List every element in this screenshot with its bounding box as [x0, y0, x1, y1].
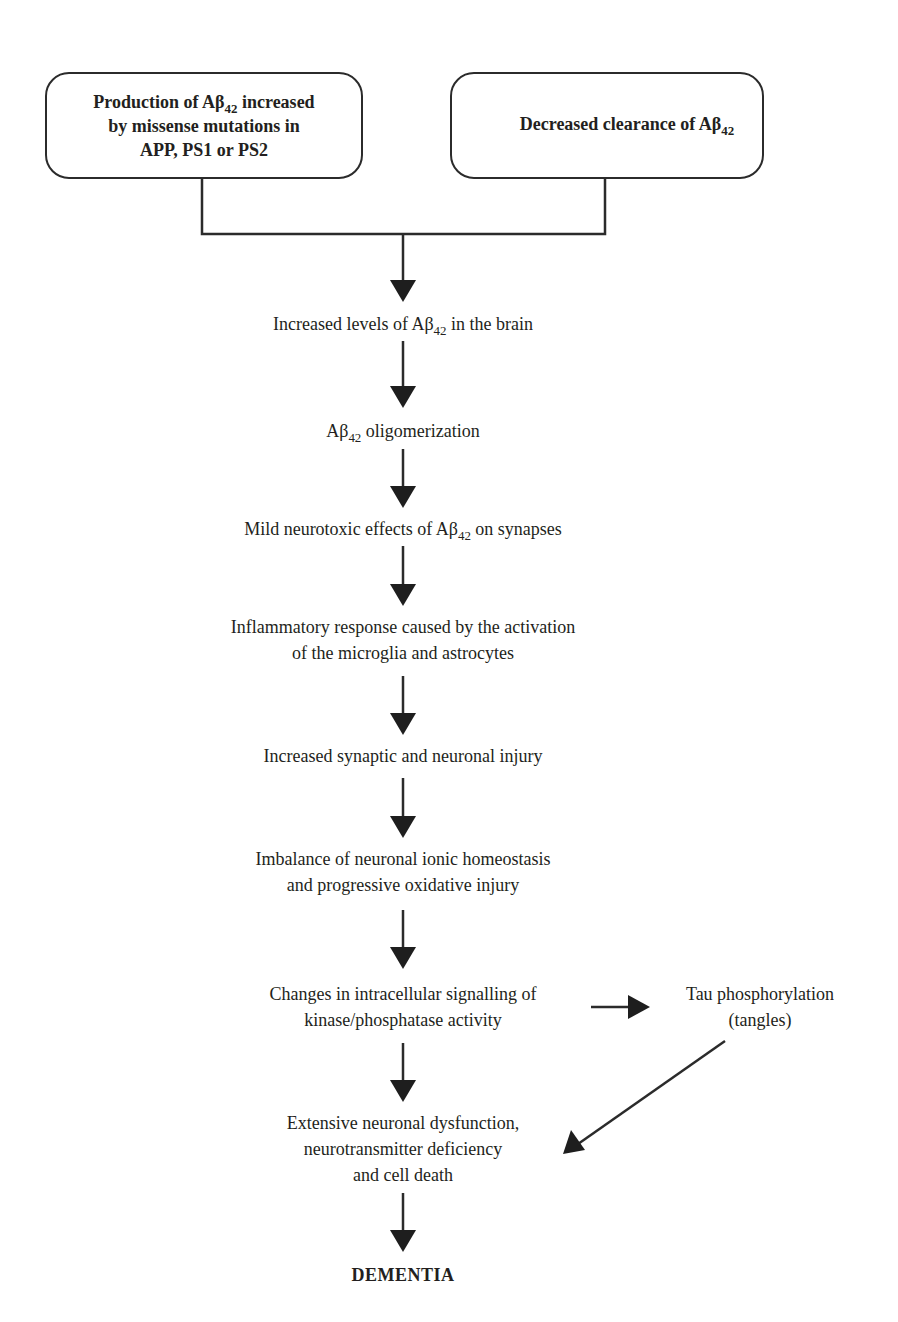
- arrowhead-down-9: [390, 1230, 416, 1252]
- arrowhead-right-tau: [628, 995, 650, 1019]
- merge-connector: [202, 178, 605, 234]
- arrowhead-down-4: [390, 584, 416, 606]
- text-line: kinase/phosphatase activity: [270, 1007, 537, 1033]
- text-line: Mild neurotoxic effects of Aβ42 on synap…: [244, 516, 562, 542]
- text-line: Increased levels of Aβ42 in the brain: [273, 311, 533, 337]
- arrowhead-down-6: [390, 816, 416, 838]
- text-line: Imbalance of neuronal ionic homeostasis: [256, 846, 551, 872]
- clearance-box: Decreased clearance of Aβ42: [450, 72, 764, 179]
- arrowhead-down-7: [390, 947, 416, 969]
- arrowhead-down-2: [390, 386, 416, 408]
- step-ionic-imbalance: Imbalance of neuronal ionic homeostasis …: [256, 846, 551, 898]
- text-line: Aβ42 oligomerization: [326, 418, 480, 444]
- outcome-label: DEMENTIA: [351, 1262, 454, 1288]
- arrowhead-down-8: [390, 1080, 416, 1102]
- text-line: Decreased clearance of Aβ42: [520, 112, 735, 136]
- text-line: by missense mutations in: [93, 114, 314, 138]
- text-line: Extensive neuronal dysfunction,: [287, 1110, 519, 1136]
- production-box: Production of Aβ42 increased by missense…: [45, 72, 363, 179]
- step-neuronal-dysfunction: Extensive neuronal dysfunction, neurotra…: [287, 1110, 519, 1188]
- text-line: Production of Aβ42 increased: [93, 90, 314, 114]
- text-line: and progressive oxidative injury: [256, 872, 551, 898]
- text-line: and cell death: [287, 1162, 519, 1188]
- text-line: APP, PS1 or PS2: [93, 138, 314, 162]
- arrow-shaft-from-tau: [578, 1041, 725, 1144]
- arrowhead-down-3: [390, 486, 416, 508]
- text-line: of the microglia and astrocytes: [231, 640, 575, 666]
- text-line: Inflammatory response caused by the acti…: [231, 614, 575, 640]
- step-synaptic-injury: Increased synaptic and neuronal injury: [264, 743, 543, 769]
- step-increased-levels: Increased levels of Aβ42 in the brain: [273, 311, 533, 337]
- dementia-outcome: DEMENTIA: [351, 1262, 454, 1288]
- text-line: (tangles): [686, 1007, 834, 1033]
- flowchart-canvas: Production of Aβ42 increased by missense…: [0, 0, 898, 1322]
- clearance-box-text: Decreased clearance of Aβ42: [480, 112, 735, 140]
- text-line: Increased synaptic and neuronal injury: [264, 743, 543, 769]
- text-line: neurotransmitter deficiency: [287, 1136, 519, 1162]
- production-box-text: Production of Aβ42 increased by missense…: [93, 90, 314, 162]
- step-inflammatory-response: Inflammatory response caused by the acti…: [231, 614, 575, 666]
- arrowhead-down-1: [390, 280, 416, 302]
- tau-phosphorylation-node: Tau phosphorylation (tangles): [686, 981, 834, 1033]
- step-oligomerization: Aβ42 oligomerization: [326, 418, 480, 444]
- text-line: Changes in intracellular signalling of: [270, 981, 537, 1007]
- arrowhead-down-5: [390, 713, 416, 735]
- text-line: Tau phosphorylation: [686, 981, 834, 1007]
- step-signalling-changes: Changes in intracellular signalling of k…: [270, 981, 537, 1033]
- step-neurotoxic-effects: Mild neurotoxic effects of Aβ42 on synap…: [244, 516, 562, 542]
